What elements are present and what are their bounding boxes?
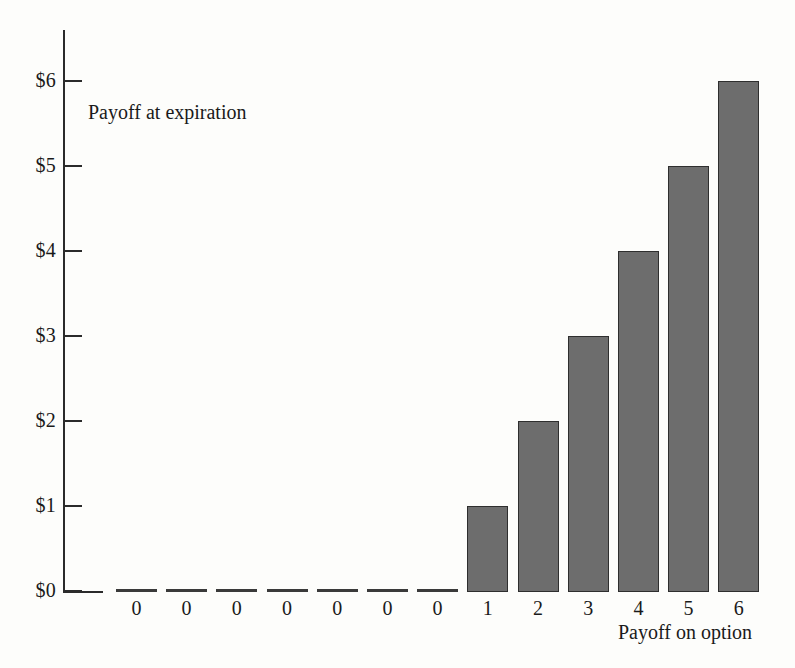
x-axis-tick-label: 5	[662, 597, 715, 619]
y-axis-tick-label: $5	[12, 155, 56, 175]
x-axis-title: Payoff on option	[618, 620, 752, 644]
bar	[518, 421, 559, 592]
bar	[568, 336, 609, 592]
y-axis-tick-label: $0	[12, 580, 56, 600]
x-axis-tick-label: 0	[160, 597, 213, 619]
bar	[718, 81, 759, 592]
y-axis-tick-label: $3	[12, 325, 56, 345]
bar	[668, 166, 709, 592]
bar	[166, 589, 207, 592]
bar	[417, 589, 458, 592]
payoff-bar-chart: $0$1$2$3$4$5$6 0000000123456 Payoff at e…	[0, 0, 795, 668]
x-axis-tick-label: 0	[361, 597, 414, 619]
bar	[467, 506, 508, 592]
bar	[367, 589, 408, 592]
bar	[267, 589, 308, 592]
y-axis-tick-label: $4	[12, 240, 56, 260]
x-axis-tick-label: 0	[411, 597, 464, 619]
y-axis-tick-label: $1	[12, 495, 56, 515]
x-axis-tick-label: 0	[261, 597, 314, 619]
x-axis-tick-label: 1	[461, 597, 514, 619]
bar	[317, 589, 358, 592]
x-axis-tick-label: 0	[311, 597, 364, 619]
x-axis-tick-label: 0	[110, 597, 163, 619]
x-axis-tick-label: 4	[612, 597, 665, 619]
bar	[618, 251, 659, 592]
y-axis-tick-label: $6	[12, 70, 56, 90]
y-axis-tick-label: $2	[12, 410, 56, 430]
bar	[216, 589, 257, 592]
bar	[116, 589, 157, 592]
x-axis-tick-label: 2	[512, 597, 565, 619]
y-axis-title: Payoff at expiration	[88, 100, 246, 124]
x-axis-tick-label: 0	[210, 597, 263, 619]
x-axis-tick-label: 6	[712, 597, 765, 619]
x-axis-tick-label: 3	[562, 597, 615, 619]
